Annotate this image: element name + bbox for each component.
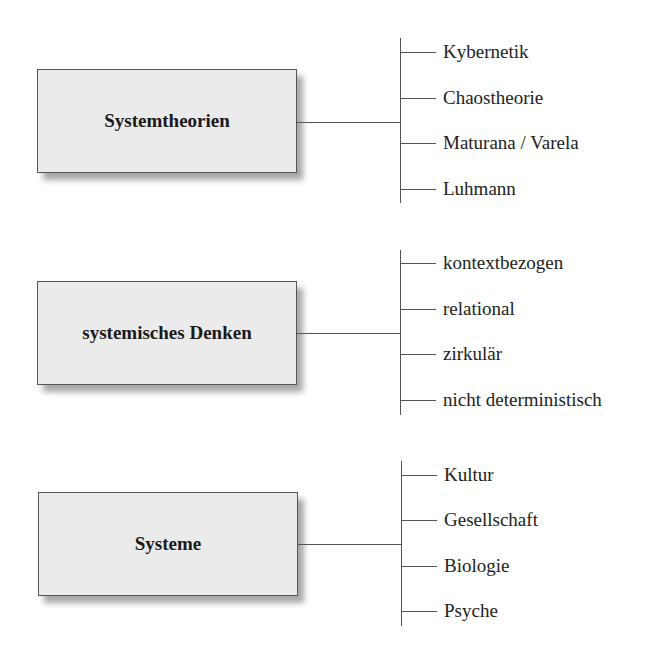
branch-tick [400, 263, 436, 264]
box-systeme: Systeme [38, 492, 298, 596]
list-item: zirkulär [443, 343, 502, 365]
connector-line [297, 122, 401, 123]
branch-tick [400, 400, 436, 401]
list-item: Kybernetik [443, 41, 528, 63]
box-label: systemisches Denken [82, 322, 251, 344]
list-item: relational [443, 298, 515, 320]
list-item: Maturana / Varela [443, 132, 579, 154]
box-systemisches-denken: systemisches Denken [37, 281, 297, 385]
box-label: Systemtheorien [104, 110, 230, 132]
list-item: Kultur [444, 464, 494, 486]
branch-tick [400, 98, 436, 99]
list-item: Biologie [444, 555, 509, 577]
list-item: Psyche [444, 600, 498, 622]
branch-tick [400, 309, 436, 310]
branch-tick [401, 475, 437, 476]
branch-tick [400, 354, 436, 355]
connector-line [298, 544, 401, 545]
list-item: Chaostheorie [443, 87, 543, 109]
list-item: kontextbezogen [443, 252, 563, 274]
branch-tick [400, 189, 436, 190]
list-item: nicht deterministisch [443, 389, 602, 411]
branch-tick [400, 52, 436, 53]
connector-line [297, 333, 401, 334]
list-item: Luhmann [443, 178, 516, 200]
bracket-line [401, 461, 402, 626]
branch-tick [401, 611, 437, 612]
list-item: Gesellschaft [444, 509, 538, 531]
branch-tick [401, 566, 437, 567]
branch-tick [400, 143, 436, 144]
box-systemtheorien: Systemtheorien [37, 69, 297, 173]
bracket-line [400, 250, 401, 415]
branch-tick [401, 520, 437, 521]
box-label: Systeme [135, 533, 201, 555]
bracket-line [400, 38, 401, 203]
